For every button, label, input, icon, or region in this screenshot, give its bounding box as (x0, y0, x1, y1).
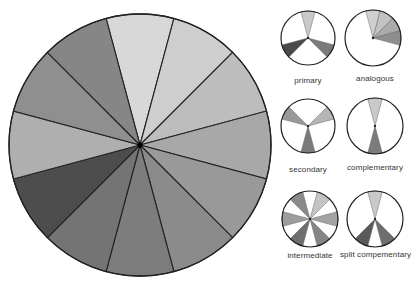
label-primary: primary (288, 76, 328, 85)
label-split-complementary: split compementary (340, 250, 410, 259)
label-analogous: analogous (350, 74, 400, 83)
scheme-wheel-intermediate (282, 191, 338, 247)
label-complementary: complementary (343, 163, 407, 172)
scheme-wheel-analogous (345, 10, 401, 66)
scheme-wheel-secondary (281, 99, 335, 153)
scheme-wheel-complementary (347, 98, 403, 154)
label-secondary: secondary (283, 165, 333, 174)
label-intermediate: intermediate (280, 251, 340, 260)
main-color-wheel (9, 14, 271, 276)
wheel-center (138, 143, 143, 148)
scheme-wheel-split-compementary (347, 191, 403, 247)
scheme-wheel-primary (281, 11, 335, 65)
color-scheme-wheels (281, 10, 403, 247)
